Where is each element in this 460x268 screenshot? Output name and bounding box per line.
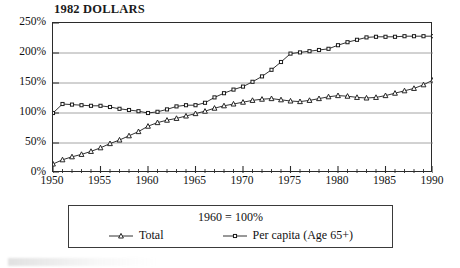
x-axis-tick-label: 1970 bbox=[231, 174, 254, 186]
x-axis-tick-label: 1990 bbox=[421, 174, 444, 186]
y-axis-tick-label: 150% bbox=[19, 75, 46, 87]
chart-title: 1982 DOLLARS bbox=[54, 2, 145, 17]
legend-marker-icon bbox=[108, 231, 134, 241]
x-axis-tick-label: 1975 bbox=[278, 174, 301, 186]
legend-label: Per capita (Age 65+) bbox=[253, 228, 353, 243]
y-axis-tick-label: 250% bbox=[19, 15, 46, 27]
series-total bbox=[53, 77, 433, 166]
x-axis-tick-label: 1980 bbox=[326, 174, 349, 186]
x-axis-tick-label: 1950 bbox=[41, 174, 64, 186]
legend-entry-per-capita: Per capita (Age 65+) bbox=[222, 228, 353, 243]
x-axis-ticks bbox=[53, 166, 433, 173]
chart-page: 1982 DOLLARS 0%50%100%150%200%250% 19501… bbox=[0, 0, 460, 268]
y-axis-tick-label: 50% bbox=[25, 135, 46, 147]
y-axis-tick-label: 200% bbox=[19, 45, 46, 57]
x-axis-tick-label: 1985 bbox=[373, 174, 396, 186]
data-series-layer bbox=[53, 35, 433, 166]
x-axis-tick-label: 1955 bbox=[88, 174, 111, 186]
y-axis-ticks bbox=[53, 23, 59, 173]
legend-entry-total: Total bbox=[108, 228, 164, 243]
chart-plot-svg bbox=[53, 23, 433, 173]
y-axis-tick-label: 100% bbox=[19, 105, 46, 117]
x-axis-tick-label: 1960 bbox=[136, 174, 159, 186]
legend: 1960 = 100% TotalPer capita (Age 65+) bbox=[68, 205, 393, 248]
legend-entries: TotalPer capita (Age 65+) bbox=[69, 228, 392, 243]
legend-label: Total bbox=[139, 228, 164, 243]
scan-artifact bbox=[8, 258, 158, 266]
legend-marker-icon bbox=[222, 231, 248, 241]
x-axis-tick-label: 1965 bbox=[183, 174, 206, 186]
plot-area bbox=[52, 22, 432, 172]
legend-note: 1960 = 100% bbox=[69, 210, 392, 225]
